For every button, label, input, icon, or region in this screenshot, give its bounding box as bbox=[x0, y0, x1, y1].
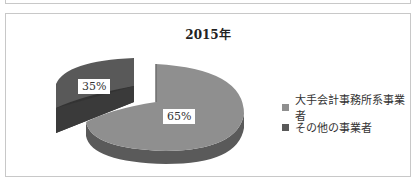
previous-panel-border bbox=[5, 0, 411, 4]
legend-label: その他の事業者 bbox=[295, 119, 372, 135]
legend: 大手会計事務所系事業者 その他の事業者 bbox=[282, 97, 410, 137]
data-label-65: 65% bbox=[163, 109, 195, 124]
chart-panel: 2015年 35% 65% 大手会計事務所系事業者 その他の事業者 bbox=[5, 13, 411, 177]
legend-swatch-icon bbox=[282, 124, 289, 131]
legend-item: 大手会計事務所系事業者 bbox=[282, 97, 410, 117]
legend-swatch-icon bbox=[282, 104, 289, 111]
data-label-35: 35% bbox=[78, 79, 110, 94]
